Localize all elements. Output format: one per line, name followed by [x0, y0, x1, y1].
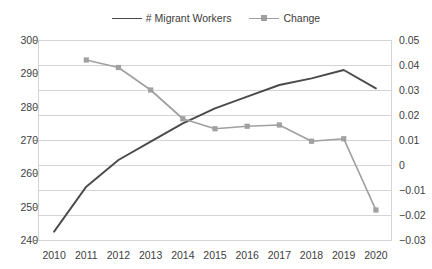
legend-item-change[interactable]: Change: [249, 12, 320, 24]
data-point-marker: [373, 207, 378, 212]
chart-title: [0, 0, 432, 1]
y-axis-right-tick-label: 0.01: [399, 135, 432, 145]
gridline: [38, 240, 392, 241]
x-axis-tick-label: 2020: [356, 250, 396, 261]
y-axis-right-tick-label: −0.03: [399, 235, 432, 245]
y-axis-right-tick-label: −0.01: [399, 185, 432, 195]
data-point-marker: [309, 139, 314, 144]
y-axis-right-tick-label: 0.04: [399, 60, 432, 70]
data-point-marker: [341, 136, 346, 141]
legend-swatch-line-marker-icon: [249, 14, 279, 23]
legend-swatch-line-icon: [112, 14, 142, 23]
data-point-marker: [245, 124, 250, 129]
legend-label-change: Change: [283, 12, 320, 24]
legend-item-migrant-workers[interactable]: # Migrant Workers: [112, 12, 232, 24]
chart-legend: # Migrant Workers Change: [0, 11, 432, 25]
legend-label-migrant-workers: # Migrant Workers: [146, 12, 232, 24]
series-line-change: [86, 60, 376, 210]
y-axis-right-tick-label: 0.05: [399, 35, 432, 45]
series-lines: [38, 40, 392, 240]
y-axis-right-tick-label: 0: [399, 160, 432, 170]
y-axis-left-tick-mark: [33, 240, 38, 241]
y-axis-right-tick-label: −0.02: [399, 210, 432, 220]
data-point-marker: [277, 122, 282, 127]
data-point-marker: [84, 57, 89, 62]
data-point-marker: [180, 116, 185, 121]
y-axis-right-tick-label: 0.02: [399, 110, 432, 120]
data-point-marker: [148, 87, 153, 92]
y-axis-right-tick-label: 0.03: [399, 85, 432, 95]
data-point-marker: [116, 65, 121, 70]
series-line-migrant-workers: [54, 70, 376, 232]
chart-container: # Migrant Workers Change 240250260270280…: [0, 0, 432, 269]
data-point-marker: [212, 126, 217, 131]
